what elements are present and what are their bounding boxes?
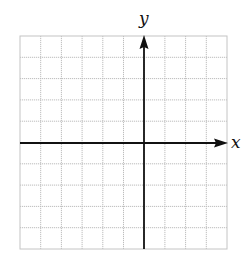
coordinate-plane: x y xyxy=(0,0,244,255)
y-axis-arrow-icon xyxy=(140,35,149,49)
y-axis-label: y xyxy=(138,8,149,28)
x-axis-label: x xyxy=(231,132,241,152)
x-axis-arrow-icon xyxy=(214,139,228,148)
